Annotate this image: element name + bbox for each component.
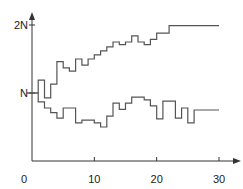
x-tick-label: 0	[21, 173, 27, 185]
x-tick-label: 30	[213, 173, 225, 185]
chart: 0102030 N2N	[0, 0, 243, 189]
series-lines	[27, 26, 219, 127]
y-tick-label: N	[20, 87, 28, 99]
series-lower-line	[27, 93, 219, 127]
series-upper-line	[27, 26, 219, 98]
x-tick-label: 20	[151, 173, 163, 185]
axes	[32, 16, 237, 161]
y-tick-label: 2N	[14, 19, 28, 31]
x-tick-label: 10	[88, 173, 100, 185]
